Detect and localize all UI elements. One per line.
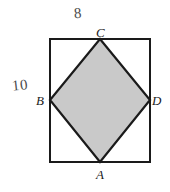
vertex-point-A: [99, 161, 101, 163]
vertex-point-D: [149, 99, 151, 101]
geometry-figure: [0, 0, 170, 192]
vertex-point-B: [49, 99, 51, 101]
measurement-label-top-width: 8: [73, 6, 82, 22]
vertex-label-c: C: [96, 26, 105, 39]
vertex-label-b: B: [36, 94, 44, 107]
vertex-label-d: D: [152, 94, 161, 107]
measurement-label-left-height: 10: [11, 77, 28, 94]
vertex-label-a: A: [96, 168, 104, 181]
